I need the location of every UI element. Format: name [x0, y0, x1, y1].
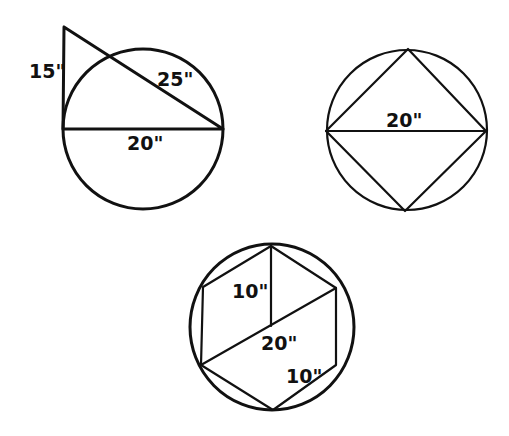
figure-hexagon-circle: 10" 20" 10": [190, 244, 354, 410]
radius-label: 10": [232, 280, 268, 302]
diameter-label: 20": [386, 109, 422, 131]
diameter-label: 20": [261, 332, 297, 354]
side-label: 10": [286, 365, 322, 387]
geometry-diagram: 15" 25" 20" 20" 10" 20" 10": [0, 0, 509, 436]
figure-square-circle: 20": [326, 49, 487, 211]
diameter-label: 20": [127, 132, 163, 154]
height-label: 15": [29, 60, 65, 82]
figure-triangle-circle: 15" 25" 20": [29, 27, 223, 209]
hypotenuse-label: 25": [157, 68, 193, 90]
right-triangle: [63, 27, 223, 129]
